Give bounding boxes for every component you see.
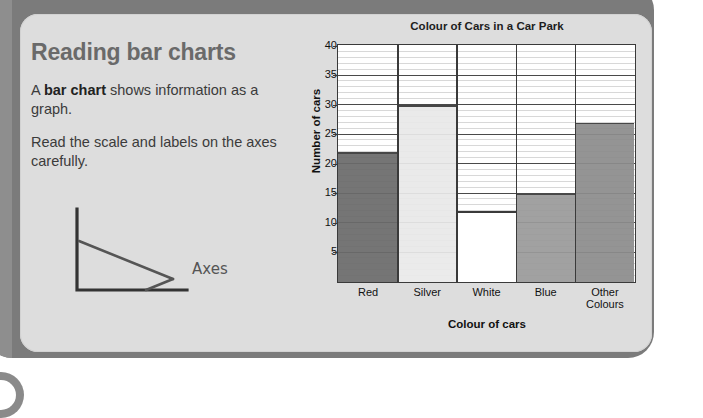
chart-title: Colour of Cars in a Car Park (337, 20, 637, 32)
chart-x-axis-label: Colour of cars (337, 318, 637, 330)
chart-bar (456, 211, 515, 282)
chart-category-separator (397, 45, 398, 282)
chart-gridline-minor (338, 98, 635, 99)
chart-y-tick-label: 25 (303, 127, 337, 139)
chart-bar-top-edge (575, 123, 634, 125)
axes-sketch-label: Axes (192, 260, 228, 278)
lesson-paragraph-2: Read the scale and labels on the axes ca… (31, 133, 301, 171)
chart-category-separator (516, 45, 517, 282)
chart-gridline-major (338, 75, 635, 76)
chart-x-tick-label: OtherColours (565, 286, 645, 311)
chart-bar-top-edge (338, 152, 397, 154)
chart-y-tick-label: 15 (303, 186, 337, 198)
chart-gridline-major (338, 104, 635, 105)
chart-gridline-minor (338, 86, 635, 87)
chart-x-tick-label-line: Colours (565, 298, 645, 310)
chart-bar (338, 152, 397, 282)
bar-chart: Colour of Cars in a Car Park Number of c… (301, 20, 649, 338)
chart-gridline-minor (338, 116, 635, 117)
chart-gridline-minor (338, 80, 635, 81)
chart-y-axis-ticks: 403530252015105 (297, 44, 337, 283)
chart-gridline-minor (338, 92, 635, 93)
chart-y-tick-label: 30 (303, 98, 337, 110)
chart-gridline-minor (338, 63, 635, 64)
chart-gridline-minor (338, 110, 635, 111)
chart-gridline-minor (338, 51, 635, 52)
chart-plot-area (337, 44, 636, 283)
axes-diagram: Axes (70, 204, 300, 304)
paragraph-1-lead: A (31, 82, 44, 98)
chart-category-separator (575, 45, 576, 282)
paragraph-1-emphasis: bar chart (44, 82, 106, 98)
chart-bar (575, 123, 634, 282)
chart-x-tick-label-line: Other (565, 286, 645, 298)
chart-y-tick-label: 35 (303, 68, 337, 80)
chart-bar-top-edge (516, 194, 575, 196)
chart-gridline-minor (338, 69, 635, 70)
chart-bar (397, 105, 456, 282)
lesson-text-column: Reading bar charts A bar chart shows inf… (31, 40, 301, 184)
chart-bar (516, 194, 575, 283)
chart-bar-top-edge (397, 105, 456, 107)
page-title: Reading bar charts (31, 40, 301, 65)
chart-y-tick-label: 20 (303, 157, 337, 169)
page-left-edge (0, 0, 12, 358)
chart-y-tick-label: 40 (303, 39, 337, 51)
chart-y-tick-label: 5 (303, 245, 337, 257)
axes-sketch-icon (70, 204, 300, 304)
chart-bar-top-edge (456, 211, 515, 213)
chart-gridline-minor (338, 57, 635, 58)
chart-y-tick-label: 10 (303, 216, 337, 228)
lesson-paragraph-1: A bar chart shows information as a graph… (31, 81, 301, 119)
chart-category-separator (456, 45, 457, 282)
